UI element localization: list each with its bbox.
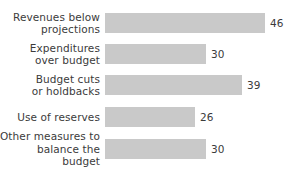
bar-row: Use of reserves 26 xyxy=(0,103,297,131)
horizontal-bar-chart: Revenues below projections 46 Expenditur… xyxy=(0,0,297,173)
bar-value-label: 46 xyxy=(270,17,283,29)
bar-row: Budget cuts or holdbacks 39 xyxy=(0,70,297,100)
bar-use-of-reserves[interactable] xyxy=(105,107,195,127)
bar-track: 46 xyxy=(105,8,297,38)
bar-value-label: 39 xyxy=(247,79,260,91)
bar-value-label: 30 xyxy=(211,143,224,155)
bar-expenditures-over-budget[interactable] xyxy=(105,44,206,64)
bar-value-label: 30 xyxy=(211,48,224,60)
bar-row: Revenues below projections 46 xyxy=(0,8,297,38)
bar-track: 39 xyxy=(105,70,297,100)
bar-budget-cuts-or-holdbacks[interactable] xyxy=(105,75,242,95)
category-label: Budget cuts or holdbacks xyxy=(0,73,105,98)
bar-row: Expenditures over budget 30 xyxy=(0,40,297,68)
chart-top-margin xyxy=(0,0,297,6)
bar-row: Other measures to balance the budget 30 xyxy=(0,134,297,164)
bar-track: 30 xyxy=(105,134,297,164)
bar-track: 26 xyxy=(105,103,297,131)
category-label: Expenditures over budget xyxy=(0,42,105,67)
category-label: Revenues below projections xyxy=(0,11,105,36)
bar-revenues-below-projections[interactable] xyxy=(105,13,265,33)
bar-track: 30 xyxy=(105,40,297,68)
bar-other-measures-to-balance-the-budget[interactable] xyxy=(105,139,206,159)
bar-value-label: 26 xyxy=(200,111,213,123)
category-label: Use of reserves xyxy=(0,111,105,124)
category-label: Other measures to balance the budget xyxy=(0,130,105,168)
